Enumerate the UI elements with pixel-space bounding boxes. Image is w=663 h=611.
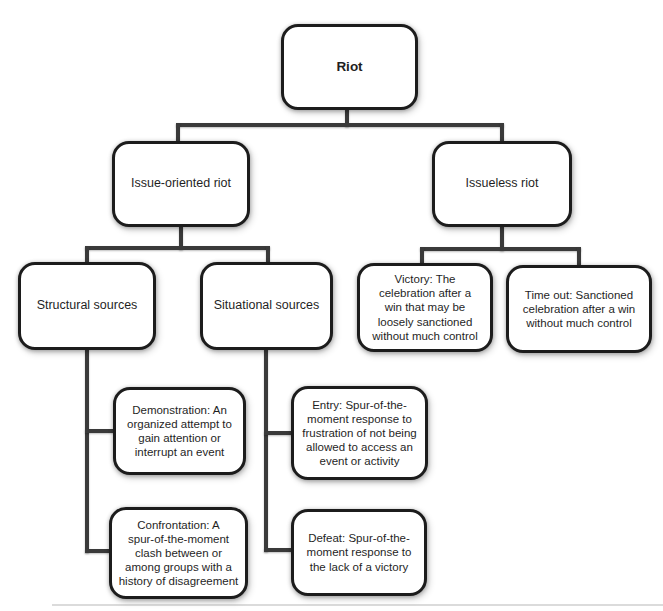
node-time-out: Time out: Sanctioned celebration after a… — [506, 265, 652, 353]
connector-drop-timeout — [577, 247, 581, 267]
connector-branch-confrontation — [85, 549, 111, 553]
connector-branch-defeat — [264, 548, 293, 552]
node-confrontation: Confrontation: A spur-of-the-moment clas… — [109, 507, 248, 599]
node-issueless-riot: Issueless riot — [432, 141, 572, 227]
riot-typology-flowchart: Riot Issue-oriented riot Issueless riot … — [0, 0, 663, 611]
connector-branch-entry — [264, 431, 293, 435]
connector-level1-crossbar — [176, 123, 504, 127]
node-demonstration: Demonstration: An organized attempt to g… — [113, 387, 246, 475]
node-riot: Riot — [281, 24, 418, 110]
connector-branch-demonstration — [85, 429, 115, 433]
connector-situational-stem — [264, 348, 268, 552]
connector-drop-issue-oriented — [176, 123, 180, 143]
connector-structural-stem — [85, 348, 89, 553]
scan-artifact-line — [52, 604, 663, 606]
node-issue-oriented-riot: Issue-oriented riot — [112, 141, 250, 227]
node-situational-sources: Situational sources — [200, 262, 333, 350]
connector-drop-issueless — [500, 123, 504, 143]
node-entry: Entry: Spur-of-the- moment response to f… — [291, 386, 428, 480]
node-structural-sources: Structural sources — [18, 262, 156, 350]
connector-issue-crossbar — [85, 246, 270, 250]
node-victory: Victory: The celebration after a win tha… — [357, 263, 493, 352]
connector-issueless-crossbar — [420, 247, 581, 251]
node-defeat: Defeat: Spur-of-the- moment response to … — [291, 509, 427, 596]
